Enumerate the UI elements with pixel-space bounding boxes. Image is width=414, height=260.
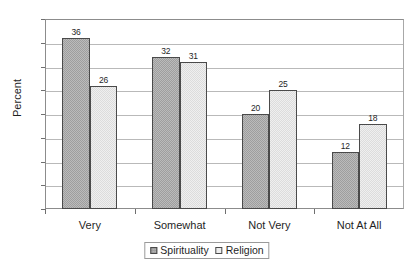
bar-value-label: 31 xyxy=(189,51,198,61)
bar-religion-not-at-all xyxy=(359,124,387,210)
chart-title xyxy=(40,0,380,3)
chart-legend: Spirituality Religion xyxy=(144,242,269,259)
x-axis-tick-mark xyxy=(225,209,226,214)
legend-swatch-icon-spirituality xyxy=(150,247,157,254)
bar-groups: 3626323120251218 xyxy=(45,19,404,209)
legend-label-religion: Religion xyxy=(226,244,264,256)
bar-value-label: 20 xyxy=(251,103,260,113)
bar-value-label: 25 xyxy=(278,79,287,89)
legend-item-spirituality: Spirituality xyxy=(150,244,208,256)
bar-value-label: 32 xyxy=(161,46,170,56)
y-axis-title: Percent xyxy=(11,53,23,143)
bar-value-label: 36 xyxy=(71,27,80,37)
x-axis-category-label: Very xyxy=(79,219,101,231)
x-axis-category-label: Not At All xyxy=(337,219,382,231)
bar-value-label: 18 xyxy=(368,113,377,123)
x-axis-tick-mark xyxy=(135,209,136,214)
bar-spirituality-very xyxy=(62,38,90,209)
legend-label-spirituality: Spirituality xyxy=(160,244,208,256)
bar-spirituality-somewhat xyxy=(152,57,180,209)
bar-religion-very xyxy=(90,86,118,210)
x-axis-tick-mark xyxy=(45,209,46,214)
x-axis-category-label: Somewhat xyxy=(154,219,206,231)
bar-spirituality-not-very xyxy=(242,114,270,209)
legend-item-religion: Religion xyxy=(216,244,264,256)
bar-spirituality-not-at-all xyxy=(332,152,360,209)
x-axis-category-label: Not Very xyxy=(248,219,290,231)
bar-chart: Percent 0510152025303540 362632312025121… xyxy=(0,0,414,260)
bar-religion-somewhat xyxy=(180,62,208,209)
bar-value-label: 26 xyxy=(99,75,108,85)
legend-swatch-icon-religion xyxy=(216,247,223,254)
x-axis-tick-mark xyxy=(314,209,315,214)
bar-value-label: 12 xyxy=(341,141,350,151)
bar-religion-not-very xyxy=(269,90,297,209)
